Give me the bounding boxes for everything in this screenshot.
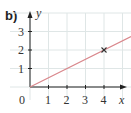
y-tick-3: 3 — [18, 25, 24, 39]
axes — [30, 16, 122, 87]
y-tick-2: 2 — [18, 43, 24, 57]
x-tick-2: 2 — [64, 93, 70, 107]
data-line — [30, 37, 131, 88]
x-tick-4: 4 — [101, 93, 107, 107]
x-tick-1: 1 — [45, 93, 51, 107]
x-tick-3: 3 — [82, 93, 88, 107]
x-axis-arrow-icon — [120, 85, 127, 90]
x-axis-label: x — [118, 93, 125, 107]
y-axis-arrow-icon — [28, 11, 33, 18]
ticks — [28, 32, 104, 90]
x-tick-0: 0 — [19, 93, 25, 107]
coordinate-plot: 0 1 2 3 4 x 1 2 3 y — [0, 0, 131, 113]
y-axis-label: y — [35, 6, 42, 20]
y-tick-1: 1 — [18, 62, 24, 76]
